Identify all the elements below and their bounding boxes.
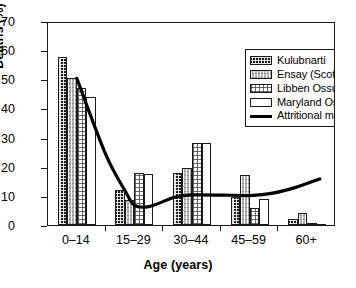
bar-014-maryland-ossuaries	[86, 97, 96, 225]
bar-60+-kulubnarti	[288, 219, 298, 225]
legend-item-label: Ensay (Scotland)	[277, 69, 335, 80]
y-tick-label: 10	[0, 191, 15, 204]
bar-014-kulubnarti	[58, 57, 68, 225]
bar-1529-kulubnarti	[115, 190, 125, 225]
y-tick-label: 0	[0, 220, 15, 233]
dark-checkered-swatch	[250, 56, 272, 65]
chart-legend: KulubnartiEnsay (Scotland)Libben Ossuary…	[245, 49, 335, 127]
bar-1529-libben-ossuary	[134, 173, 144, 225]
x-tick-mark	[277, 226, 278, 231]
plot-area: KulubnartiEnsay (Scotland)Libben Ossuary…	[47, 22, 335, 226]
x-tick-mark	[105, 226, 106, 231]
legend-item-label: Attritional model e0 = 25	[277, 110, 335, 122]
bar-3044-libben-ossuary	[192, 143, 202, 225]
y-tick-label: 50	[0, 74, 15, 87]
bar-014-libben-ossuary	[77, 88, 87, 225]
y-tick-label: 60	[0, 45, 15, 58]
white-plain-swatch	[250, 98, 272, 107]
bar-3044-kulubnarti	[173, 173, 183, 225]
black-line-swatch	[250, 115, 272, 118]
bar-014-ensay-scotland	[67, 78, 77, 225]
legend-item-label: Kulubnarti	[277, 55, 326, 66]
y-tick-mark	[41, 226, 47, 227]
legend-item-label: Libben Ossuary	[277, 83, 335, 94]
bar-60+-libben-ossuary	[307, 223, 317, 225]
bar-4559-libben-ossuary	[250, 208, 260, 225]
legend-item-maryland-ossuaries: Maryland Ossuaries	[250, 95, 335, 109]
chart-figure: Deaths (%) 010203040506070 0–1415–2930–4…	[0, 0, 356, 288]
legend-item-label: Maryland Ossuaries	[277, 97, 335, 108]
bar-1529-maryland-ossuaries	[144, 174, 154, 225]
y-tick-label: 20	[0, 161, 15, 174]
y-tick-label: 70	[0, 16, 15, 29]
bar-60+-ensay-scotland	[298, 213, 308, 225]
x-tick-mark	[220, 226, 221, 231]
y-tick-label: 40	[0, 103, 15, 116]
bar-1529-ensay-scotland	[125, 200, 135, 225]
white-dotted-swatch	[250, 84, 272, 93]
bar-4559-kulubnarti	[231, 197, 241, 225]
bar-3044-maryland-ossuaries	[202, 143, 212, 225]
x-tick-mark	[162, 226, 163, 231]
x-axis-title: Age (years)	[0, 258, 356, 272]
x-tick-label-4: 60+	[266, 233, 346, 247]
bar-3044-ensay-scotland	[182, 168, 192, 225]
legend-item-attritional-model: Attritional model e0 = 25	[250, 109, 335, 123]
y-tick-label: 30	[0, 132, 15, 145]
bar-4559-ensay-scotland	[240, 175, 250, 225]
legend-item-ensay-scotland: Ensay (Scotland)	[250, 67, 335, 81]
bar-4559-maryland-ossuaries	[259, 199, 269, 225]
bar-60+-maryland-ossuaries	[317, 224, 327, 226]
legend-item-kulubnarti: Kulubnarti	[250, 53, 335, 67]
gray-hatched-swatch	[250, 70, 272, 79]
legend-item-libben-ossuary: Libben Ossuary	[250, 81, 335, 95]
